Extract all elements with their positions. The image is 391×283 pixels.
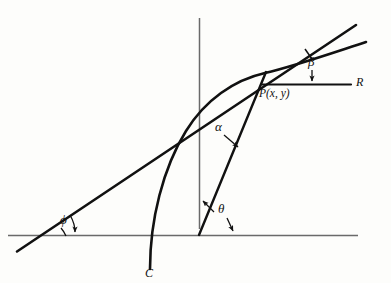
angle-alpha-leader xyxy=(224,135,238,147)
angle-theta-leader-down xyxy=(227,218,233,231)
radius-vector xyxy=(199,72,266,235)
angle-alpha-label: α xyxy=(215,120,222,133)
math-figure xyxy=(0,0,391,283)
angle-phi-label: ϕ xyxy=(60,213,67,226)
angle-theta-label: θ xyxy=(218,202,224,215)
angle-beta-label: β xyxy=(308,55,314,68)
angle-phi-leader xyxy=(70,215,75,232)
curve-c-label: C xyxy=(145,267,153,279)
ray-r-label: R xyxy=(356,76,363,88)
point-p-label: P(x, y) xyxy=(259,88,290,100)
tangent-line xyxy=(17,25,356,252)
